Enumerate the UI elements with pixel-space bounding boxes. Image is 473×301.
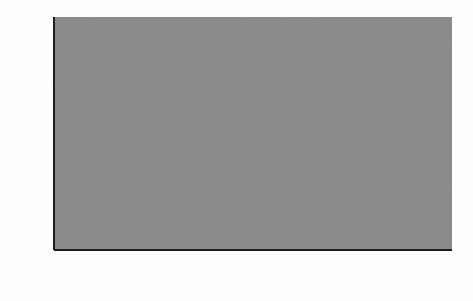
- paper-grain-overlay: [0, 0, 473, 301]
- chart-container: [0, 0, 473, 301]
- stacked-area-chart: [0, 0, 473, 301]
